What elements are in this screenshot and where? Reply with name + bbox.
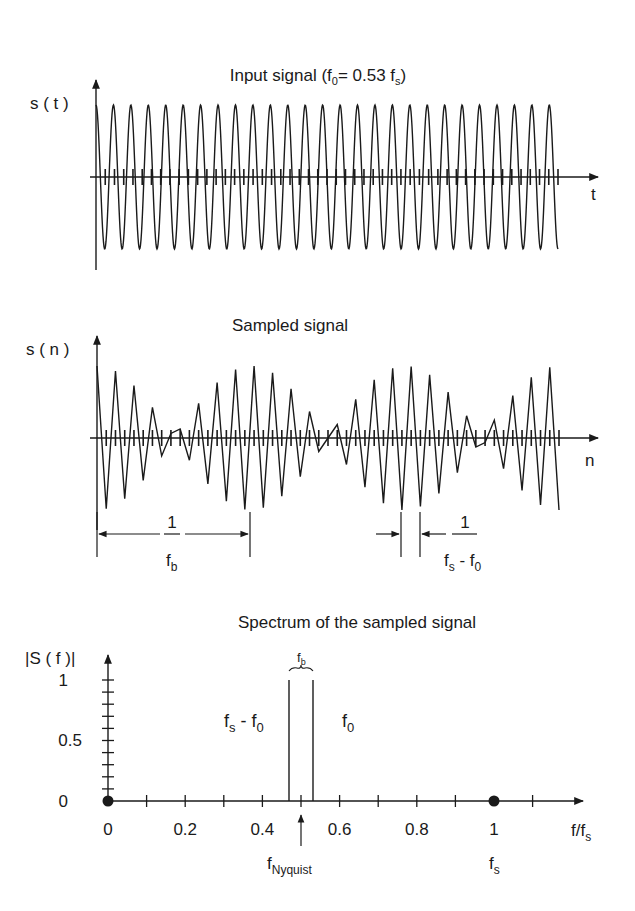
x-axis-label-f-fs: f/fs bbox=[571, 821, 591, 844]
svg-text:1: 1 bbox=[489, 820, 498, 839]
nyquist-label: fNyquist bbox=[267, 854, 312, 877]
spectrum-title: Spectrum of the sampled signal bbox=[238, 613, 476, 632]
svg-text:0.2: 0.2 bbox=[173, 820, 197, 839]
spectrum-panel: Spectrum of the sampled signal |S ( f )|… bbox=[25, 613, 591, 877]
y-axis-label-sf: |S ( f )| bbox=[25, 649, 75, 668]
fs-marker-dot bbox=[489, 796, 500, 807]
fb-bracket-label: fb bbox=[297, 650, 306, 667]
beat-period-numerator: 1 bbox=[167, 513, 176, 532]
y-tick-label-1: 1 bbox=[59, 671, 68, 690]
x-axis-label-n: n bbox=[585, 451, 594, 470]
fs-label: fs bbox=[489, 854, 500, 877]
beat-period-denominator: fb bbox=[166, 551, 178, 574]
svg-text:0.4: 0.4 bbox=[251, 820, 275, 839]
alias-period-numerator: 1 bbox=[460, 513, 469, 532]
input-signal-title: Input signal (f0= 0.53 fs) bbox=[230, 66, 407, 87]
alias-period-denominator: fs - f0 bbox=[444, 551, 482, 574]
beat-period-annotation: 1 fb bbox=[97, 512, 250, 574]
x-axis-label-t: t bbox=[591, 185, 596, 204]
svg-text:0: 0 bbox=[103, 820, 112, 839]
fs-minus-f0-label: fs - f0 bbox=[224, 711, 264, 735]
y-tick-label-0: 0 bbox=[59, 792, 68, 811]
y-axis-label-st: s ( t ) bbox=[30, 94, 69, 113]
f0-label: f0 bbox=[342, 711, 354, 735]
y-tick-label-0-5: 0.5 bbox=[58, 731, 82, 750]
dc-marker-dot bbox=[103, 796, 114, 807]
figure: Input signal (f0= 0.53 fs) s ( t ) t Sam… bbox=[0, 0, 635, 911]
svg-text:0.6: 0.6 bbox=[328, 820, 352, 839]
svg-text:0.8: 0.8 bbox=[405, 820, 429, 839]
alias-period-annotation: 1 fs - f0 bbox=[376, 512, 482, 574]
input-signal-panel: Input signal (f0= 0.53 fs) s ( t ) t bbox=[30, 66, 598, 270]
sampled-signal-title: Sampled signal bbox=[232, 316, 348, 335]
sampled-signal-panel: Sampled signal s ( n ) n 1 fb 1 fs - f0 bbox=[26, 316, 598, 574]
y-axis-label-sn: s ( n ) bbox=[26, 340, 69, 359]
